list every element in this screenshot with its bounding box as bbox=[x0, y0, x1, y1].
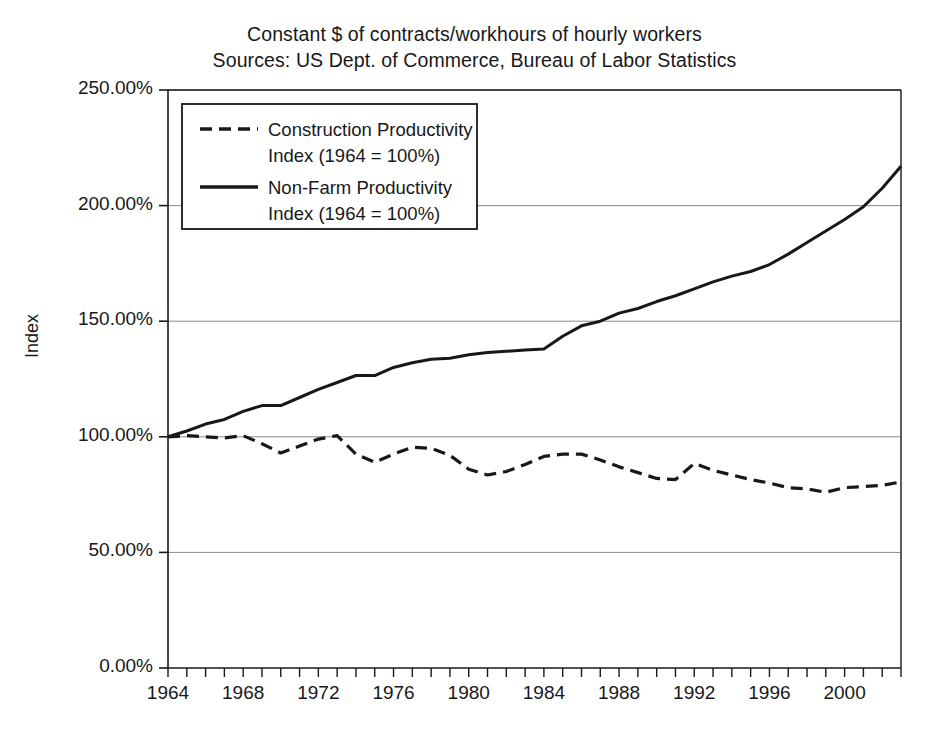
legend-label-1: Construction Productivity bbox=[268, 119, 473, 140]
plot-area: Construction ProductivityIndex (1964 = 1… bbox=[0, 0, 949, 744]
legend-label-2: Index (1964 = 100%) bbox=[268, 203, 440, 224]
legend-label-1: Index (1964 = 100%) bbox=[268, 145, 440, 166]
legend: Construction ProductivityIndex (1964 = 1… bbox=[182, 104, 477, 229]
series-line-1 bbox=[168, 436, 901, 493]
chart-figure: Constant $ of contracts/workhours of hou… bbox=[0, 0, 949, 744]
legend-label-2: Non-Farm Productivity bbox=[268, 177, 453, 198]
